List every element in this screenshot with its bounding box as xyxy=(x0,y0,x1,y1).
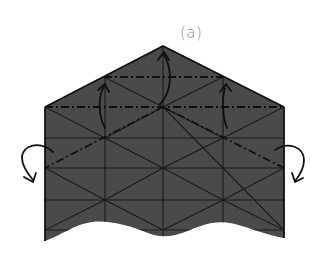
origami-crease-diagram xyxy=(0,0,322,258)
figure-label: (a) xyxy=(180,24,202,42)
